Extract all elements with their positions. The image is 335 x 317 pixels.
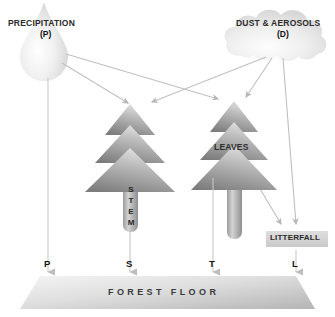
dust-aerosols-label: DUST & AEROSOLS (236, 19, 320, 28)
stem-letter-e: E (125, 206, 137, 217)
stem-label: S T E M (125, 184, 137, 228)
flux-letter-p: P (44, 258, 50, 269)
forest-floor-label: FOREST FLOOR (108, 288, 219, 297)
arrow-dust-to-litterfall (283, 58, 296, 224)
stem-letter-s: S (125, 184, 137, 195)
flux-letter-s: S (126, 258, 132, 269)
litterfall-label: LITTERFALL (270, 234, 320, 242)
tree-right (191, 101, 277, 239)
stem-letter-t: T (125, 195, 137, 206)
arrow-dust-to-left-tree (152, 57, 266, 102)
arrow-precip-to-right-tree (66, 54, 218, 99)
flux-letter-t: T (209, 258, 215, 269)
stem-letter-m: M (125, 217, 137, 228)
leaves-label: LEAVES (214, 143, 249, 152)
precipitation-symbol: (P) (40, 30, 51, 39)
dust-aerosols-symbol: (D) (277, 30, 289, 39)
precipitation-label: PRECIPITATION (8, 19, 75, 28)
diagram-canvas (0, 0, 335, 317)
flux-letter-l: L (292, 258, 298, 269)
nutrient-flux-diagram: PRECIPITATION (P) DUST & AEROSOLS (D) LE… (0, 0, 335, 317)
precipitation-drop-shape (20, 2, 68, 81)
